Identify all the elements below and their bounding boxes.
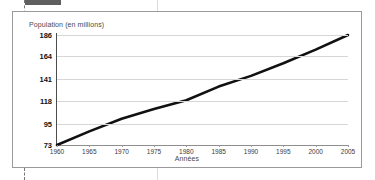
y-axis-title: Population (en millions): [29, 21, 104, 28]
x-tick-mark: [251, 145, 252, 147]
y-tick-label: 118: [40, 97, 52, 106]
gridline-y: [57, 124, 348, 125]
selection-handle-tab[interactable]: [25, 0, 61, 5]
x-axis-title: Années: [13, 155, 361, 162]
x-tick-label: 2000: [308, 148, 322, 155]
line-chart: Population (en millions) 739511814116418…: [13, 12, 361, 167]
x-tick-mark: [316, 145, 317, 147]
y-tick-label: 95: [44, 119, 52, 128]
series-population-line: [57, 35, 348, 145]
gridline-y: [57, 101, 348, 102]
x-tick-mark: [122, 145, 123, 147]
x-tick-mark: [186, 145, 187, 147]
x-tick-mark: [283, 145, 284, 147]
x-tick-mark: [57, 145, 58, 147]
selection-guide-bottom: [24, 168, 25, 180]
x-tick-label: 1990: [244, 148, 258, 155]
x-tick-label: 1995: [276, 148, 290, 155]
x-tick-label: 1975: [147, 148, 161, 155]
plot-area: 7395118141164186196019651970197519801985…: [57, 35, 348, 145]
x-tick-label: 1980: [179, 148, 193, 155]
y-tick-label: 186: [39, 31, 52, 40]
x-tick-label: 2005: [341, 148, 355, 155]
gridline-y: [57, 79, 348, 80]
x-tick-label: 1965: [82, 148, 96, 155]
gridline-y: [57, 56, 348, 57]
x-tick-label: 1985: [211, 148, 225, 155]
x-tick-mark: [348, 145, 349, 147]
y-tick-label: 164: [39, 52, 52, 61]
x-tick-label: 1960: [50, 148, 64, 155]
x-axis-line: [56, 145, 348, 146]
chart-figure-frame[interactable]: Population (en millions) 739511814116418…: [12, 11, 362, 168]
x-tick-mark: [219, 145, 220, 147]
gridline-y: [57, 35, 348, 36]
x-tick-mark: [154, 145, 155, 147]
y-tick-label: 141: [39, 74, 52, 83]
x-tick-mark: [89, 145, 90, 147]
x-tick-label: 1970: [114, 148, 128, 155]
